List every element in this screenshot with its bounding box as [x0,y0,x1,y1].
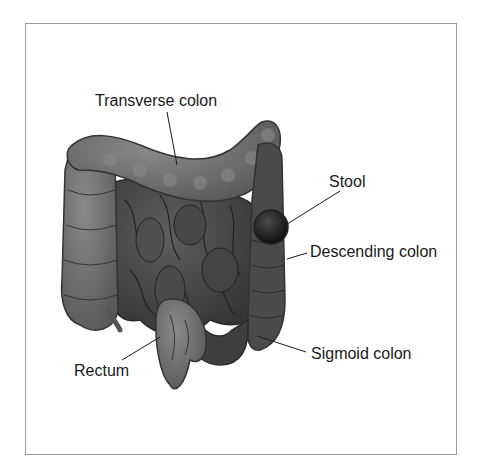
label-rectum: Rectum [74,362,129,380]
label-transverse-colon: Transverse colon [95,92,217,110]
colon-illustration [0,0,480,474]
label-sigmoid-colon: Sigmoid colon [311,345,412,363]
label-descending-colon: Descending colon [310,243,437,261]
label-stool: Stool [329,173,365,191]
leader-descending [287,253,307,259]
stool [254,210,288,244]
leader-stool [284,191,340,226]
leader-rectum [122,337,160,360]
